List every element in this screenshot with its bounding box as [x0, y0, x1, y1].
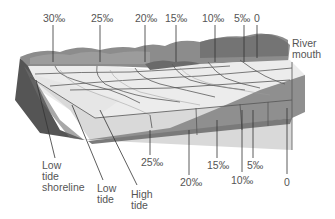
salinity-label-30: 30‰	[43, 13, 65, 24]
bottom-salinity-25: 25‰	[141, 157, 163, 168]
salinity-label-25: 25‰	[91, 13, 113, 24]
bottom-salinity-0: 0	[284, 177, 290, 188]
label-line: tide	[97, 194, 116, 205]
river-mouth-label: River mouth	[292, 38, 321, 60]
bottom-salinity-15: 15‰	[207, 160, 229, 171]
salinity-label-20: 20‰	[135, 13, 157, 24]
label-line: tide	[131, 200, 153, 211]
bottom-salinity-5: 5‰	[247, 160, 263, 171]
salinity-label-5: 5‰	[234, 13, 250, 24]
label-line: shoreline	[42, 182, 85, 193]
low-tide-label: Low tide	[97, 183, 116, 205]
low-tide-shoreline-label: Low tide shoreline	[42, 160, 85, 193]
high-tide-label: High tide	[131, 189, 153, 211]
bottom-salinity-10: 10‰	[231, 175, 253, 186]
bottom-salinity-20: 20‰	[180, 177, 202, 188]
salinity-label-10: 10‰	[202, 13, 224, 24]
river-mouth-line2: mouth	[292, 49, 321, 60]
salinity-label-0: 0	[254, 13, 260, 24]
salinity-label-15: 15‰	[165, 13, 187, 24]
